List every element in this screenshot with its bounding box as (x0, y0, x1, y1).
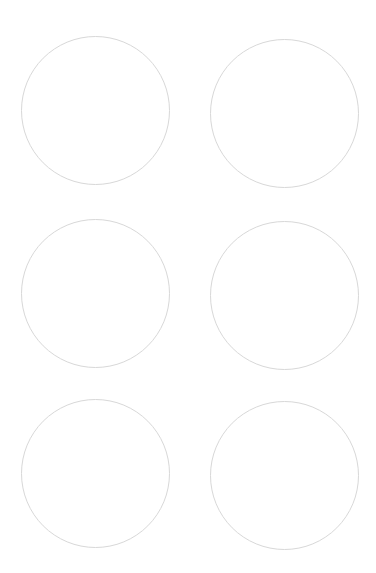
label-circle-2[interactable] (210, 39, 359, 188)
label-circle-5-text (22, 400, 169, 547)
label-circle-3[interactable] (21, 219, 170, 368)
label-circle-1-text (22, 37, 169, 184)
label-circle-4-text (211, 222, 358, 369)
label-circle-6-text (211, 402, 358, 549)
label-circle-2-text (211, 40, 358, 187)
label-circle-6[interactable] (210, 401, 359, 550)
label-circle-5[interactable] (21, 399, 170, 548)
label-sheet-page (0, 0, 376, 573)
label-circle-1[interactable] (21, 36, 170, 185)
label-circle-3-text (22, 220, 169, 367)
label-circle-4[interactable] (210, 221, 359, 370)
